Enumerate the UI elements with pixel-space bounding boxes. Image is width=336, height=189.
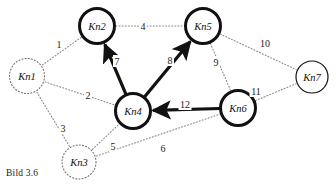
edge-weight-e6: 6	[161, 143, 166, 154]
edge-weight-e11: 11	[251, 86, 261, 97]
node-kn2[interactable]: Kn2	[80, 9, 115, 44]
node-label-kn7: Kn7	[302, 72, 321, 83]
edge-weight-e7: 7	[115, 56, 120, 67]
edge-kn1-kn3	[37, 92, 70, 146]
nodes-layer: Kn1Kn2Kn3Kn4Kn5Kn6Kn7	[10, 9, 329, 180]
edge-weight-e1: 1	[57, 39, 62, 50]
edge-kn5-kn7	[220, 34, 296, 70]
node-label-kn5: Kn5	[193, 21, 212, 32]
node-label-kn3: Kn3	[69, 157, 88, 168]
node-kn3[interactable]: Kn3	[62, 145, 96, 179]
edge-weight-e5: 5	[111, 141, 116, 152]
node-kn4[interactable]: Kn4	[116, 94, 151, 129]
node-label-kn2: Kn2	[87, 21, 106, 32]
edge-kn4-kn5	[144, 41, 190, 97]
edge-weight-e12: 12	[180, 99, 190, 110]
figure-bild-3-6: Kn1Kn2Kn3Kn4Kn5Kn6Kn7 123456789101112 Bi…	[0, 0, 336, 189]
edge-kn1-kn4	[45, 82, 115, 105]
edge-weight-e2: 2	[86, 90, 91, 101]
edge-kn4-kn2	[105, 44, 126, 94]
node-label-kn1: Kn1	[17, 71, 36, 82]
edge-weight-e8: 8	[168, 55, 173, 66]
edge-weight-e10: 10	[260, 38, 270, 49]
node-label-kn6: Kn6	[228, 103, 247, 114]
edge-weight-e4: 4	[141, 21, 146, 32]
graph-canvas: Kn1Kn2Kn3Kn4Kn5Kn6Kn7 123456789101112	[0, 0, 336, 189]
edge-weight-e3: 3	[61, 123, 66, 134]
edge-weight-e9: 9	[214, 57, 219, 68]
figure-caption: Bild 3.6	[6, 168, 38, 178]
node-kn7[interactable]: Kn7	[296, 61, 328, 93]
node-label-kn4: Kn4	[123, 106, 142, 117]
node-kn1[interactable]: Kn1	[10, 59, 45, 94]
node-kn5[interactable]: Kn5	[186, 9, 221, 44]
